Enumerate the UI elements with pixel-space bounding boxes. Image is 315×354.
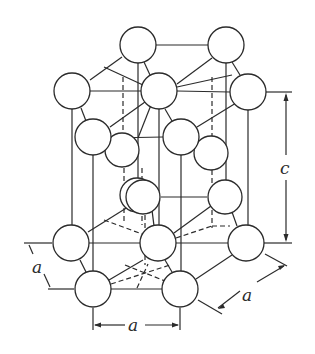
hcp-crystal-diagram: c a a a xyxy=(0,0,315,354)
atom-top-front-right xyxy=(163,119,199,155)
atom-bottom-left xyxy=(53,225,89,261)
atom-top-back-left xyxy=(120,27,156,63)
top-layer-atoms xyxy=(54,27,266,155)
bottom-layer-atoms xyxy=(53,225,264,307)
label-a-bottom: a xyxy=(128,315,138,335)
atom-top-back-right xyxy=(208,27,244,63)
label-a-right: a xyxy=(242,285,252,305)
atom-bottom-center xyxy=(140,225,176,261)
dimension-a-right: a xyxy=(198,254,287,314)
atom-top-center xyxy=(141,73,177,109)
atom-bottom-front-left xyxy=(75,271,111,307)
atom-top-left xyxy=(54,73,90,109)
atom-top-front-left xyxy=(75,119,111,155)
atom-bottom-right xyxy=(228,225,264,261)
label-a-left: a xyxy=(32,257,42,277)
dimension-c: c xyxy=(264,92,292,243)
dimension-a-bottom: a xyxy=(93,308,180,335)
atom-mid-front-right xyxy=(208,180,242,214)
atom-mid-front-left xyxy=(126,180,160,214)
label-c: c xyxy=(280,158,290,178)
atom-bottom-front-right xyxy=(162,271,198,307)
atom-top-right xyxy=(230,74,266,110)
